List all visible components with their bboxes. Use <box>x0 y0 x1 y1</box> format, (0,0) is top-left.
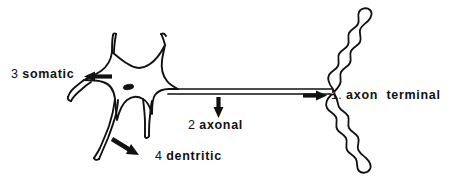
axon-shaft <box>168 89 332 94</box>
axon-terminal-branch-lower <box>326 94 370 173</box>
dendrite-left <box>68 80 91 101</box>
neuron-diagram: 3 somatic 1. axon terminal 2 axonal 4 de… <box>0 0 450 186</box>
label-axon-terminal-term: axon terminal <box>346 88 441 102</box>
label-dentritic: 4 dentritic <box>155 150 222 163</box>
label-dentritic-term: dentritic <box>166 149 222 163</box>
label-axonal-term: axonal <box>199 118 243 132</box>
nucleus <box>123 84 134 91</box>
dendrite-upper-left <box>112 33 116 52</box>
label-axonal: 2 axonal <box>188 119 243 132</box>
arrow-down-right-icon <box>112 139 139 155</box>
soma-cell-body <box>84 45 178 120</box>
dendrite-upper-right <box>161 34 166 45</box>
label-axon-terminal: 1. axon terminal <box>331 89 441 102</box>
dendrite-lower-left <box>94 99 118 160</box>
axon-terminal-branch-upper <box>328 8 371 92</box>
arrow-right-icon <box>303 91 327 101</box>
label-somatic: 3 somatic <box>11 68 74 81</box>
arrow-down-icon <box>214 97 224 118</box>
label-axon-terminal-number: 1. <box>331 88 342 102</box>
label-somatic-term: somatic <box>22 67 74 81</box>
